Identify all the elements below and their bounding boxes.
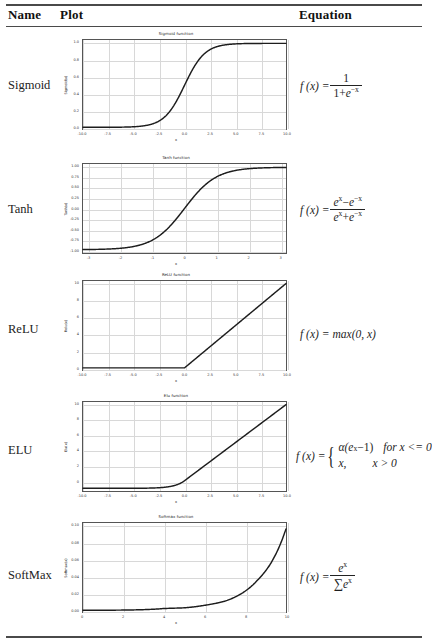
equation-softmax: f (x) = ex ∑ex [300,562,356,592]
equation-tanh-numerator: ex−e−x [330,196,365,209]
x-tick-label: -10.0 [77,132,86,136]
table-header-row: Name Plot Equation [0,7,428,26]
x-tick-label: 10 [285,615,289,619]
y-axis-label: Elu(x) [64,441,68,451]
y-tick-label: 0.50 [60,185,79,189]
x-tick-label: 4 [163,615,165,619]
y-tick-label: 0.6 [60,75,79,79]
equation-sigmoid: f (x) = 1 1+e−x [300,72,363,100]
equation-sigmoid-denominator: 1+e−x [330,85,361,99]
sigma-symbol: ∑ [333,576,342,591]
x-tick-label: -2.5 [155,373,162,377]
x-tick-label: -3 [87,256,91,260]
equation-tanh-fraction: ex−e−x ex+e−x [330,196,365,224]
plot-sigmoid: Sigmoid function-10.0-7.5-5.0-2.50.02.55… [60,31,292,143]
x-tick-label: -2 [119,256,123,260]
equation-sigmoid-numerator: 1 [340,72,352,85]
equation-tanh-denominator: ex+e−x [330,209,365,223]
y-tick-label: 0.00 [60,609,79,613]
x-tick-label: -7.5 [104,373,111,377]
y-tick-label: 10 [60,402,79,406]
x-tick-label: 0.0 [182,132,188,136]
equation-sigmoid-lhs: f (x) = [300,80,329,92]
y-tick-label: 2 [60,464,79,468]
equation-tanh: f (x) = ex−e−x ex+e−x [300,196,366,224]
y-tick-label: 6 [60,315,79,319]
x-tick-label: -5.0 [130,132,137,136]
row-label-tanh: Tanh [8,202,33,217]
x-tick-label: 5.0 [233,373,239,377]
y-axis-label: Softmax(x) [64,558,68,577]
y-tick-label: -0.25 [60,217,79,221]
x-tick-label: 10.0 [283,373,291,377]
y-tick-label: -0.75 [60,238,79,242]
x-tick-label: -10.0 [77,494,86,498]
equation-sigmoid-den-exponent: −x [351,85,359,94]
x-tick-label: 10.0 [283,494,291,498]
x-tick-label: -2.5 [155,132,162,136]
chart-title: Tanh function [60,155,292,160]
x-tick-label: -2.5 [155,494,162,498]
y-tick-label: 0.08 [60,541,79,545]
eq-elu-l1: α(e [338,440,353,456]
y-tick-label: -0.50 [60,228,79,232]
piecewise-brace: { [328,446,335,466]
x-axis-label: x [60,500,292,504]
eq-tanh-den-b-exp: −x [354,209,362,218]
gridline-vertical [288,402,289,491]
eq-tanh-num-b-exp: −x [354,194,362,203]
chart-axes [82,522,287,613]
row-label-sigmoid: Sigmoid [8,78,50,93]
equation-elu-line-2: x, x > 0 [338,456,431,472]
row-label-elu: ELU [8,443,32,458]
gridline-horizontal [83,612,286,613]
x-tick-label: -5.0 [130,494,137,498]
chart-curve [83,164,286,253]
y-axis-label: Tanh(x) [64,202,68,215]
gridline-vertical [288,40,289,129]
chart-title: Elu function [60,393,292,398]
x-tick-label: 5.0 [233,132,239,136]
y-axis-label: Sigmoid(x) [64,75,68,94]
y-tick-label: 0.06 [60,558,79,562]
equation-elu-line-1: α(ex−1) for x <= 0 [338,440,431,456]
table-bottom-rule [6,636,422,638]
chart-title: ReLU function [60,272,292,277]
equation-sigmoid-den-prefix: 1+ [333,87,345,99]
x-tick-label: 7.5 [259,494,265,498]
x-tick-label: -5.0 [130,373,137,377]
x-tick-label: 2.5 [207,373,213,377]
x-axis-label: x [60,138,292,142]
eq-elu-l1-end: −1) [357,440,373,456]
gridline-horizontal [83,129,286,130]
plot-elu: Elu function-10.0-7.5-5.0-2.50.02.55.07.… [60,393,292,505]
y-tick-label: 4 [60,448,79,452]
plot-softmax: Softmax function02468100.000.020.040.060… [60,514,292,626]
y-tick-label: 0.00 [60,207,79,211]
y-tick-label: -1.00 [60,249,79,253]
y-tick-label: 1.00 [60,164,79,168]
eq-sm-den-exp: x [348,576,352,585]
column-header-name: Name [8,7,41,23]
gridline-vertical [288,523,289,612]
y-tick-label: 4 [60,332,79,336]
y-tick-label: 0.25 [60,196,79,200]
plot-tanh: Tanh function-3-2-10123-1.00-0.75-0.50-0… [60,155,292,267]
x-tick-label: 8 [245,615,247,619]
x-axis-label: x [60,379,292,383]
table-top-rule [6,4,422,6]
x-tick-label: 10.0 [283,132,291,136]
column-header-equation: Equation [299,7,352,23]
y-tick-label: 8 [60,417,79,421]
eq-sm-num-exp: x [343,560,347,569]
y-tick-label: 1.0 [60,40,79,44]
x-axis-label: x [60,621,292,625]
y-tick-label: 0.75 [60,175,79,179]
chart-curve [83,281,286,370]
x-tick-label: -10.0 [77,373,86,377]
x-tick-label: 0 [183,256,185,260]
x-tick-label: -1 [151,256,155,260]
x-tick-label: -7.5 [104,132,111,136]
y-tick-label: 0 [60,480,79,484]
